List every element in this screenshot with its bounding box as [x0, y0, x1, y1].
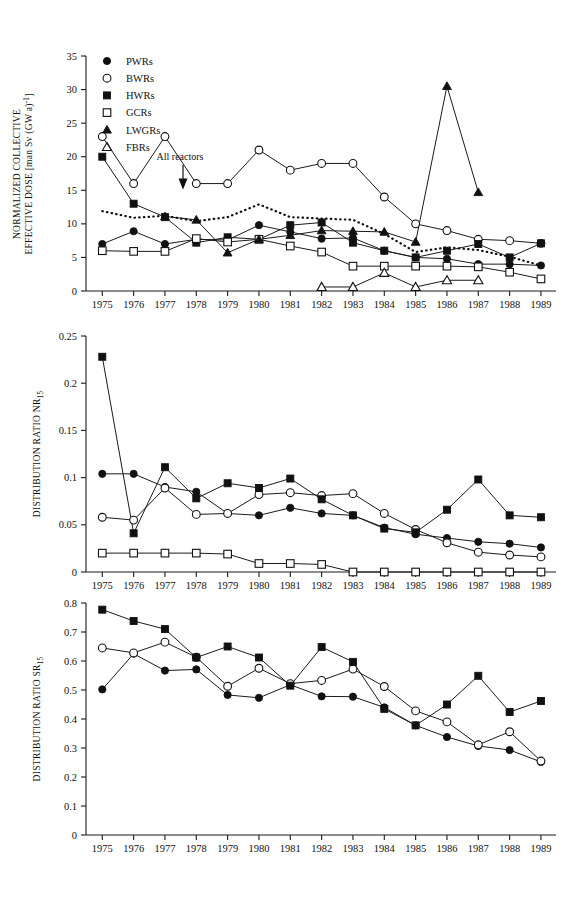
data-point-filled-square-marker-icon [99, 606, 106, 613]
legend-label-hwrs: HWRs [126, 90, 155, 101]
data-point-open-circle-marker-icon [98, 133, 106, 141]
x-tick-label-1976: 1976 [123, 843, 144, 854]
y-tick-label: 20 [67, 151, 78, 162]
data-point-filled-square-marker-icon [193, 495, 200, 502]
data-point-open-square-marker-icon [98, 247, 106, 255]
data-point-open-square-marker-icon [380, 568, 388, 576]
x-tick-label-1985: 1985 [405, 843, 426, 854]
annotation-label: All reactors [157, 151, 204, 162]
x-tick-label-1984: 1984 [374, 299, 396, 310]
data-point-filled-circle-marker-icon [537, 262, 544, 269]
data-point-open-square-marker-icon [537, 275, 545, 283]
y-tick-label: 0.4 [64, 714, 78, 725]
data-point-filled-circle-marker-icon [318, 510, 325, 517]
x-tick-label-1982: 1982 [311, 299, 332, 310]
y-axis-title-text: DISTRIBUTION RATIO SR15 [31, 656, 45, 781]
y-axis-ticks [81, 603, 86, 835]
data-point-open-circle-marker-icon [537, 757, 545, 765]
series-line-fbrs [322, 273, 479, 287]
data-point-open-square-marker-icon [443, 568, 451, 576]
data-point-filled-square-marker-icon [443, 247, 450, 254]
data-point-filled-square-marker-icon [537, 514, 544, 521]
data-point-filled-circle-marker-icon [506, 540, 513, 547]
data-point-open-circle-marker-icon [255, 146, 263, 154]
x-tick-label-1985: 1985 [405, 580, 426, 591]
x-tick-label-1978: 1978 [186, 580, 207, 591]
data-point-filled-square-marker-icon [412, 722, 419, 729]
data-point-filled-square-marker-icon [255, 484, 262, 491]
panel1-series-markers [98, 82, 544, 291]
y-tick-label: 0.1 [64, 472, 77, 483]
data-point-open-square-marker-icon [412, 568, 420, 576]
data-point-filled-square-marker-icon [318, 644, 325, 651]
data-point-open-square-marker-icon [130, 248, 138, 256]
y-axis-title-nr15: DISTRIBUTION RATIO NR15 [31, 391, 45, 518]
panel-distribution-ratio-sr15: 00.10.20.30.40.50.60.70.8 19751976197719… [31, 598, 556, 854]
data-point-open-square-marker-icon [286, 242, 294, 250]
data-point-open-triangle-marker-icon [442, 276, 451, 284]
y-axis-ticks [81, 336, 86, 572]
data-point-open-circle-marker-icon [130, 516, 138, 524]
y-tick-label: 0.6 [64, 656, 77, 667]
data-point-filled-circle-marker-icon [161, 240, 168, 247]
data-point-open-square-marker-icon [318, 561, 326, 569]
x-tick-label-1986: 1986 [436, 580, 457, 591]
data-point-filled-circle-marker-icon [537, 544, 544, 551]
legend-item-hwrs: HWRs [104, 90, 155, 101]
y-tick-label: 15 [67, 185, 78, 196]
x-tick-label-1979: 1979 [217, 299, 238, 310]
data-point-open-circle-marker-icon [506, 237, 514, 245]
y-axis-title-normalized-dose: NORMALIZED COLLECTIVE EFFECTIVE DOSE [ma… [11, 93, 35, 254]
data-point-filled-square-marker-icon [99, 353, 106, 360]
x-tick-label-1980: 1980 [248, 580, 269, 591]
legend-label-pwrs: PWRs [126, 56, 153, 67]
y-axis-ticks [81, 56, 86, 291]
data-point-filled-square-marker-icon [161, 464, 168, 471]
x-tick-label-1982: 1982 [311, 843, 332, 854]
x-tick-label-1978: 1978 [186, 299, 207, 310]
data-point-filled-square-marker-icon [475, 241, 482, 248]
data-point-filled-square-marker-icon [193, 654, 200, 661]
data-point-open-square-marker-icon [130, 549, 138, 557]
data-point-open-circle-marker-icon [98, 513, 106, 521]
data-point-filled-square-marker-icon [255, 654, 262, 661]
x-tick-label-1981: 1981 [280, 580, 301, 591]
x-axis-tick-labels: 1975197619771978197919801981198219831984… [92, 299, 552, 310]
data-point-filled-square-marker-icon [443, 506, 450, 513]
y-axis-tick-labels: 00.050.10.150.20.25 [59, 331, 77, 578]
y-axis-tick-labels: 00.10.20.30.40.50.60.70.8 [64, 598, 78, 841]
x-axis-tick-labels: 1975197619771978197919801981198219831984… [92, 843, 552, 854]
data-point-filled-square-marker-icon [99, 153, 106, 160]
data-point-open-circle-marker-icon [349, 665, 357, 673]
data-point-filled-circle-marker-icon [99, 470, 106, 477]
data-point-open-circle-marker-icon [349, 490, 357, 498]
data-point-filled-square-marker-icon [318, 219, 325, 226]
data-point-filled-square-marker-icon [506, 254, 513, 261]
data-point-filled-square-marker-icon [349, 512, 356, 519]
x-tick-label-1989: 1989 [530, 299, 551, 310]
data-point-filled-circle-marker-icon [443, 255, 450, 262]
data-point-open-circle-marker-icon [224, 180, 232, 188]
data-point-filled-square-marker-icon [506, 709, 513, 716]
data-point-open-circle-marker-icon [192, 511, 200, 519]
data-point-open-circle-marker-icon [380, 193, 388, 201]
y-tick-label: 0 [72, 286, 77, 297]
data-point-open-circle-marker-icon [192, 180, 200, 188]
data-point-open-circle-marker-icon [380, 510, 388, 518]
y-tick-label: 0 [72, 567, 77, 578]
data-point-filled-square-marker-icon [381, 525, 388, 532]
data-point-open-triangle-marker-icon [317, 282, 326, 290]
x-tick-label-1976: 1976 [123, 299, 144, 310]
data-point-filled-square-marker-icon [318, 496, 325, 503]
x-tick-label-1988: 1988 [499, 843, 520, 854]
legend-label-fbrs: FBRs [126, 142, 150, 153]
data-point-open-square-marker-icon [474, 568, 482, 576]
data-point-filled-square-marker-icon [537, 240, 544, 247]
data-point-filled-square-marker-icon [349, 658, 356, 665]
data-point-filled-circle-marker-icon [318, 235, 325, 242]
data-point-filled-circle-marker-icon [224, 691, 231, 698]
data-point-filled-square-marker-icon [130, 200, 137, 207]
legend-item-bwrs: BWRs [103, 73, 154, 84]
y-tick-label: 0.2 [64, 378, 77, 389]
legend-item-gcrs: GCRs [103, 107, 151, 118]
